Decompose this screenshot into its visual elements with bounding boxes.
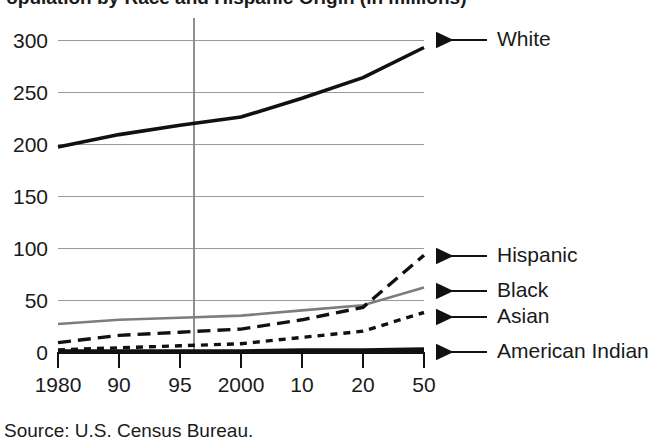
y-tick-100: 100: [13, 237, 48, 260]
series-label-hispanic: Hispanic: [497, 243, 578, 266]
series-line-asian: [58, 313, 424, 350]
x-axis-labels: 1980 90 95 2000 10 20 50: [35, 373, 436, 396]
series-callout-american-indian: American Indian: [436, 339, 649, 362]
series-line-black: [58, 288, 424, 325]
y-tick-300: 300: [13, 29, 48, 52]
series-label-white: White: [497, 27, 551, 50]
y-tick-150: 150: [13, 185, 48, 208]
series-label-american-indian: American Indian: [497, 339, 649, 362]
series-callout-white: White: [436, 27, 551, 50]
series-callout-black: Black: [436, 278, 549, 301]
series-label-asian: Asian: [497, 304, 550, 327]
y-axis-labels: 300 250 200 150 100 50 0: [13, 29, 48, 364]
chart-canvas: Population by Race and Hispanic Origin (…: [0, 0, 656, 445]
series-callout-hispanic: Hispanic: [436, 243, 578, 266]
series-label-black: Black: [497, 278, 549, 301]
chart-title: Population by Race and Hispanic Origin (…: [0, 0, 466, 8]
x-tick-10: 10: [290, 373, 313, 396]
series-line-white: [58, 48, 424, 148]
x-tick-90: 90: [107, 373, 130, 396]
x-tick-50: 50: [412, 373, 435, 396]
series-callout-asian: Asian: [436, 304, 550, 327]
population-line-chart: Population by Race and Hispanic Origin (…: [0, 0, 656, 445]
x-axis-ticks: [58, 352, 424, 368]
y-tick-0: 0: [36, 341, 48, 364]
x-tick-20: 20: [351, 373, 374, 396]
x-tick-2000: 2000: [218, 373, 265, 396]
source-note: Source: U.S. Census Bureau.: [4, 420, 253, 441]
y-tick-250: 250: [13, 81, 48, 104]
x-tick-95: 95: [168, 373, 191, 396]
y-tick-200: 200: [13, 133, 48, 156]
x-tick-1980: 1980: [35, 373, 82, 396]
y-tick-50: 50: [25, 289, 48, 312]
gridlines: [58, 40, 424, 300]
